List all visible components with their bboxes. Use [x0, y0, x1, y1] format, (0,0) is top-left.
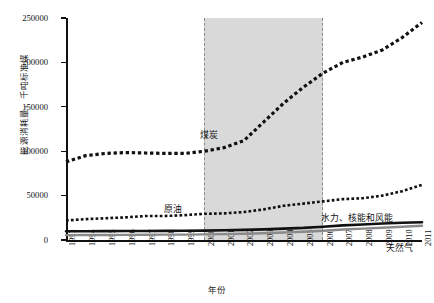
y-tick-label: 200000 — [0, 58, 48, 67]
y-tick-label: 100000 — [0, 147, 48, 156]
series-line-0 — [66, 22, 422, 161]
x-tick-label: 2011 — [425, 230, 433, 246]
series-layer — [66, 18, 422, 240]
plot-area: 050000100000150000200000250000 199319941… — [66, 18, 422, 240]
crude-oil-series-label: 原油 — [164, 205, 182, 214]
series-line-2 — [66, 222, 422, 231]
energy-consumption-chart: 能源消耗量，千吨标准煤 0500001000001500002000002500… — [0, 0, 434, 303]
natural-gas-series-label: 天然气 — [386, 244, 413, 253]
x-axis-title: 年份 — [0, 283, 434, 295]
y-tick-label: 50000 — [0, 191, 48, 200]
y-tick-label: 0 — [0, 236, 48, 245]
coal-series-label: 煤炭 — [200, 131, 218, 140]
y-tick-label: 250000 — [0, 14, 48, 23]
renewables-series-label: 水力、核能和风能 — [321, 214, 393, 223]
y-tick-label: 150000 — [0, 103, 48, 112]
